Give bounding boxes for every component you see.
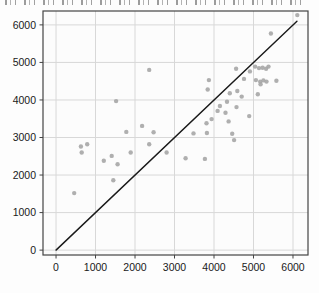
data-point: [110, 154, 114, 158]
x-tick-label: 4000: [202, 261, 226, 273]
data-point: [147, 68, 151, 72]
data-point: [225, 100, 229, 104]
data-point: [114, 99, 118, 103]
data-point: [242, 77, 246, 81]
scatter-plot-screenshot: 0100020003000400050006000010002000300040…: [0, 0, 319, 293]
x-tick-label: 1000: [84, 261, 108, 273]
data-point: [111, 178, 115, 182]
data-point: [253, 64, 257, 68]
data-point: [115, 162, 119, 166]
data-point: [274, 79, 278, 83]
data-point: [240, 94, 244, 98]
data-point: [269, 31, 273, 35]
data-point: [254, 78, 258, 82]
x-tick-label: 5000: [242, 261, 266, 273]
data-point: [209, 117, 213, 121]
data-point: [129, 150, 133, 154]
scatter-chart: 0100020003000400050006000010002000300040…: [0, 0, 319, 293]
data-point: [72, 191, 76, 195]
data-point: [230, 132, 234, 136]
data-point: [102, 159, 106, 163]
data-point: [151, 130, 155, 134]
y-tick-label: 3000: [13, 131, 37, 143]
data-point: [80, 150, 84, 154]
data-point: [183, 156, 187, 160]
data-point: [234, 105, 238, 109]
y-tick-label: 2000: [13, 169, 37, 181]
data-point: [215, 109, 219, 113]
data-point: [140, 124, 144, 128]
data-point: [248, 69, 252, 73]
data-point: [226, 119, 230, 123]
y-tick-label: 6000: [13, 19, 37, 31]
y-tick-label: 4000: [13, 94, 37, 106]
x-tick-label: 0: [53, 261, 59, 273]
data-point: [223, 111, 227, 115]
data-point: [295, 13, 299, 17]
data-point: [207, 78, 211, 82]
cropped-title-strip: [2, 0, 308, 5]
data-point: [256, 92, 260, 96]
data-point: [258, 82, 262, 86]
data-point: [266, 64, 270, 68]
data-point: [204, 121, 208, 125]
data-point: [147, 142, 151, 146]
data-point: [191, 131, 195, 135]
data-point: [79, 144, 83, 148]
y-tick-label: 0: [30, 244, 36, 256]
data-point: [234, 67, 238, 71]
data-point: [203, 157, 207, 161]
x-tick-label: 3000: [163, 261, 187, 273]
data-point: [205, 131, 209, 135]
x-tick-label: 6000: [281, 261, 305, 273]
data-point: [232, 138, 236, 142]
data-point: [235, 89, 239, 93]
data-point: [85, 142, 89, 146]
data-point: [228, 91, 232, 95]
y-tick-label: 1000: [13, 206, 37, 218]
y-tick-label: 5000: [13, 56, 37, 68]
data-point: [206, 87, 210, 91]
data-point: [247, 114, 251, 118]
data-point: [218, 104, 222, 108]
data-point: [164, 150, 168, 154]
data-point: [264, 79, 268, 83]
data-point: [124, 130, 128, 134]
x-tick-label: 2000: [123, 261, 147, 273]
